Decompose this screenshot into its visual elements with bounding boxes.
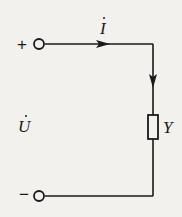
admittance-element bbox=[148, 115, 158, 139]
circuit-diagram: + − I U Y bbox=[0, 0, 182, 217]
voltage-label: U bbox=[18, 118, 30, 135]
negative-terminal bbox=[34, 191, 44, 201]
current-symbol: I bbox=[100, 20, 106, 37]
positive-sign: + bbox=[17, 36, 27, 53]
current-label: I bbox=[100, 20, 106, 37]
positive-terminal bbox=[34, 39, 44, 49]
admittance-label: Y bbox=[163, 119, 172, 136]
voltage-symbol: U bbox=[18, 118, 30, 135]
negative-sign: − bbox=[19, 186, 29, 203]
